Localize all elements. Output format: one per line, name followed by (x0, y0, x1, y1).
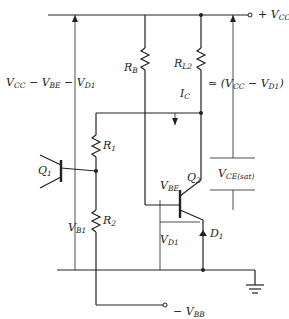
q1-label: Q1 (38, 165, 52, 178)
vce-sat-label: VCE(sat) (218, 168, 254, 181)
vb1-label: VB1 (68, 222, 86, 235)
resistor-rb (141, 48, 149, 70)
resistor-rl2 (197, 48, 205, 70)
circuit-wires (0, 0, 289, 319)
q2-label: Q2 (187, 172, 201, 185)
vbe-label: VBE (160, 180, 179, 193)
rl2-label: RL2 (174, 58, 192, 71)
resistor-r2 (92, 210, 100, 232)
vcc-label: + VCC (258, 9, 289, 22)
ic-label: IC (180, 88, 190, 101)
r2-label: R2 (103, 215, 116, 228)
r1-label: R1 (103, 140, 116, 153)
right-span-label: ≃ (VCC − VD1) (208, 78, 284, 91)
vbb-label: − VBB (173, 306, 205, 319)
circuit-diagram: + VCC − VBB RB RL2 R1 R2 Q1 Q2 D1 VCC − … (0, 0, 289, 319)
left-span-label: VCC − VBE − VD1 (6, 77, 96, 90)
resistor-r1 (92, 135, 100, 157)
vd1-label: VD1 (160, 234, 179, 247)
rb-label: RB (124, 62, 138, 75)
d1-label: D1 (210, 228, 224, 241)
